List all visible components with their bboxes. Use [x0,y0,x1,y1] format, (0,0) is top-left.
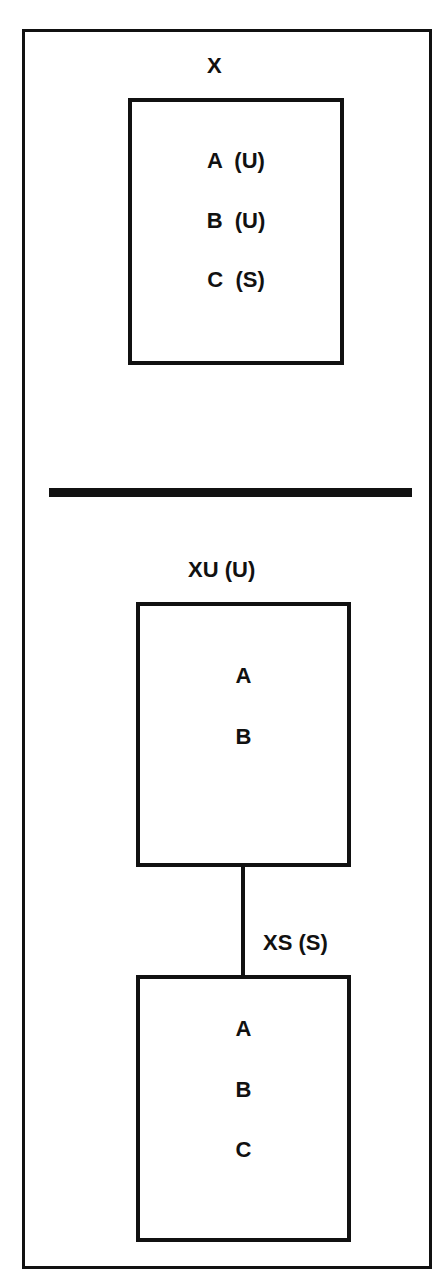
section-divider [49,488,412,497]
entity-x-attribute-b: B (U) [132,208,340,234]
entity-xs-attribute-c: C [140,1137,347,1163]
entity-x-title: X [207,53,222,79]
connector-label-xs: XS (S) [263,930,328,956]
entity-x-attribute-a: A (U) [132,148,340,174]
entity-xu-box: A B [136,602,351,867]
entity-xs-attribute-b: B [140,1077,347,1103]
relationship-connector [241,865,245,978]
entity-xu-attribute-b: B [140,724,347,750]
entity-x-box: A (U) B (U) C (S) [128,98,344,365]
entity-xu-title: XU (U) [188,557,255,583]
entity-xu-attribute-a: A [140,663,347,689]
entity-xs-attribute-a: A [140,1016,347,1042]
entity-x-attribute-c: C (S) [132,267,340,293]
entity-xs-box: A B C [136,975,351,1242]
